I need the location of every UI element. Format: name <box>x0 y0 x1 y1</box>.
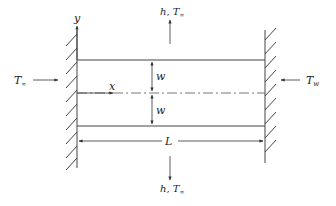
heat-transfer-diagram: y x w w L h, T∞ h, T∞ T∞ Tw <box>0 0 336 206</box>
right-wall <box>265 28 276 163</box>
length-label: L <box>164 135 172 148</box>
x-axis-label: x <box>109 80 116 93</box>
w-bottom-label: w <box>156 104 166 117</box>
top-convection-label: h, T∞ <box>160 6 184 18</box>
w-top-label: w <box>156 70 166 83</box>
right-temperature-label: Tw <box>306 74 319 88</box>
left-wall <box>66 30 77 170</box>
bottom-convection-label: h, T∞ <box>160 183 184 195</box>
left-temperature-label: T∞ <box>14 74 26 87</box>
y-axis-label: y <box>73 12 81 25</box>
